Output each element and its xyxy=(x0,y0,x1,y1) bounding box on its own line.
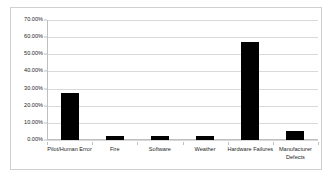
x-axis-tick-mark xyxy=(183,142,184,145)
x-axis-tick-mark xyxy=(318,142,319,145)
x-axis-category-labels: Pilot/Human ErrorFireSoftwareWeatherHard… xyxy=(47,142,318,170)
x-axis-tick-mark xyxy=(273,142,274,145)
bar[interactable] xyxy=(106,136,124,140)
bar-slot xyxy=(273,20,318,140)
x-axis-category-label: Fire xyxy=(92,146,138,154)
x-axis-tick-mark xyxy=(47,142,48,145)
bar-slot xyxy=(183,20,228,140)
bar[interactable] xyxy=(241,42,259,140)
bar[interactable] xyxy=(61,93,79,140)
y-axis-tick-label: 70.00% xyxy=(24,17,43,23)
x-axis-category-label: Weather xyxy=(182,146,228,154)
bar-chart-figure: 0.00%10.00%20.00%30.00%40.00%50.00%60.00… xyxy=(10,7,322,170)
bar[interactable] xyxy=(151,136,169,140)
gridline xyxy=(47,140,318,141)
y-axis-tick-label: 30.00% xyxy=(24,86,43,92)
x-axis-category-label: Manufacturer Defects xyxy=(272,146,318,161)
y-axis-tick-label: 50.00% xyxy=(24,51,43,57)
x-axis-tick-mark xyxy=(92,142,93,145)
bar-slot xyxy=(137,20,182,140)
x-axis-tick-mark xyxy=(137,142,138,145)
x-axis-category-label: Pilot/Human Error xyxy=(47,146,93,154)
y-axis-tick-label: 10.00% xyxy=(24,120,43,126)
y-axis-tick-label: 60.00% xyxy=(24,34,43,40)
bars-layer xyxy=(47,20,318,140)
y-axis-tick-label: 40.00% xyxy=(24,69,43,75)
x-axis-category-label: Software xyxy=(137,146,183,154)
bar-slot xyxy=(47,20,92,140)
plot-area: 0.00%10.00%20.00%30.00%40.00%50.00%60.00… xyxy=(47,20,318,140)
y-axis-tick-label: 0.00% xyxy=(27,137,43,143)
x-axis-category-label: Hardware Failures xyxy=(227,146,273,154)
y-axis-tick-label: 20.00% xyxy=(24,103,43,109)
x-axis-tick-mark xyxy=(228,142,229,145)
bar-slot xyxy=(228,20,273,140)
bar-slot xyxy=(92,20,137,140)
bar[interactable] xyxy=(286,131,304,140)
bar[interactable] xyxy=(196,136,214,140)
